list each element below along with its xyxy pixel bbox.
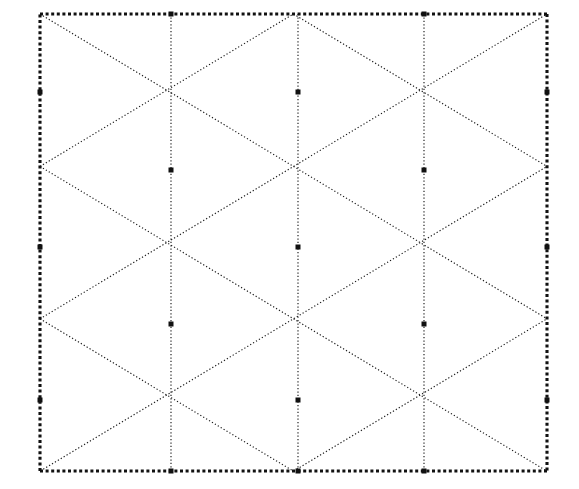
lattice-vertex-markers — [38, 12, 550, 474]
vertex-marker — [296, 245, 301, 250]
vertex-marker — [422, 322, 427, 327]
vertex-marker — [296, 398, 301, 403]
figure-root — [0, 0, 579, 489]
vertex-marker — [296, 90, 301, 95]
lattice-diagonals-down-right — [40, 14, 547, 471]
vertex-marker — [169, 322, 174, 327]
diagonal-line — [40, 166, 547, 471]
triangular-lattice-diagram — [0, 0, 579, 489]
lattice-diagonals-down-left — [40, 14, 547, 471]
vertex-marker — [169, 168, 174, 173]
vertex-marker — [422, 168, 427, 173]
boundary-rectangle — [40, 14, 547, 471]
